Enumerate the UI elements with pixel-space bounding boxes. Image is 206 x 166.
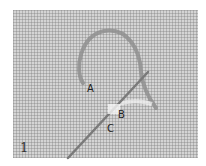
label-c: C [107,124,114,134]
label-a: A [87,84,94,94]
thread-shadow [118,101,152,104]
label-b: B [118,110,125,120]
thread-loop [79,31,156,108]
stitch-illustration [0,0,206,166]
needle [68,72,148,158]
step-number: 1 [20,141,28,154]
